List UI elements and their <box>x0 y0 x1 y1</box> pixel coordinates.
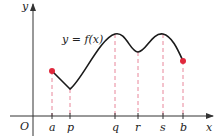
x-axis-label: x <box>206 121 213 134</box>
tick-label-s: s <box>160 121 166 134</box>
endpoint-a <box>49 68 55 74</box>
origin-label: O <box>20 120 29 133</box>
tick-label-p: p <box>67 121 74 134</box>
tick-label-q: q <box>112 121 119 134</box>
tick-label-r: r <box>135 121 141 134</box>
dashed-guides <box>52 34 183 116</box>
function-label: y = f(x) <box>61 33 103 46</box>
endpoint-b <box>180 58 186 64</box>
tick-label-a: a <box>49 121 56 134</box>
tick-label-b: b <box>180 121 187 134</box>
function-graph: y = f(x) y x O a p q r s b <box>0 0 219 139</box>
y-axis-label: y <box>21 0 29 13</box>
